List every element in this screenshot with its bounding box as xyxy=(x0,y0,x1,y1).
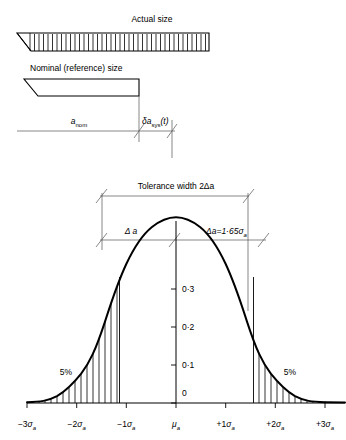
x-tick-label-4: +1σa xyxy=(217,419,236,431)
x-tick-4-sign: +1 xyxy=(217,419,227,429)
y-axis-ticks xyxy=(171,289,176,403)
x-tick-5-subscript: a xyxy=(281,425,285,431)
x-tick-1-sign: −2 xyxy=(68,419,78,429)
delta-a-sys-label: δasys(t) xyxy=(142,116,169,128)
a-nom-subscript: nom xyxy=(76,122,88,128)
y-tick-label-1: 0·1 xyxy=(182,360,195,370)
x-tick-4-subscript: a xyxy=(231,425,235,431)
x-tick-label-3: μa xyxy=(171,419,181,431)
tolerance-width-label: Tolerance width 2Δa xyxy=(138,181,215,191)
left-tail-percent-label: 5% xyxy=(60,367,73,377)
x-tick-0-sign: −3 xyxy=(18,419,28,429)
x-tick-6-sign: +3 xyxy=(316,419,326,429)
x-axis-ticks xyxy=(27,403,325,408)
actual-size-title: Actual size xyxy=(131,14,172,24)
nominal-size-title: Nominal (reference) size xyxy=(30,63,123,73)
x-tick-label-5: +2σa xyxy=(266,419,285,431)
y-tick-label-3: 0·3 xyxy=(182,284,195,294)
y-tick-label-0: 0 xyxy=(182,388,187,398)
delta-a-value-text: Δa=1·65σ xyxy=(205,226,244,236)
x-tick-3-subscript: a xyxy=(177,425,181,431)
x-tick-6-subscript: a xyxy=(331,425,335,431)
delta-a-sys-symbol: δa xyxy=(142,116,152,126)
x-tick-2-subscript: a xyxy=(132,425,136,431)
delta-a-value-subscript: a xyxy=(244,232,248,238)
x-tick-label-1: −2σa xyxy=(68,419,87,431)
x-tick-5-sign: +2 xyxy=(266,419,276,429)
y-tick-label-2: 0·2 xyxy=(182,322,195,332)
figure-root: Actual size Nominal (reference) size ano… xyxy=(0,0,346,440)
left-tail-shading xyxy=(27,200,120,403)
x-tick-label-0: −3σa xyxy=(18,419,37,431)
actual-size-bar xyxy=(17,33,209,51)
actual-size-group xyxy=(17,33,209,51)
x-tick-2-sign: −1 xyxy=(117,419,127,429)
x-tick-label-2: −1σa xyxy=(117,419,136,431)
delta-a-sys-argument: (t) xyxy=(160,116,168,126)
x-tick-0-subscript: a xyxy=(33,425,37,431)
x-tick-1-subscript: a xyxy=(82,425,86,431)
x-tick-label-6: +3σa xyxy=(316,419,335,431)
delta-a-value-label: Δa=1·65σa xyxy=(205,226,248,238)
right-tail-percent-label: 5% xyxy=(284,367,297,377)
nominal-size-shape xyxy=(24,79,139,96)
delta-a-left-label: Δ a xyxy=(124,226,138,236)
delta-a-sys-subscript: sys xyxy=(151,122,160,128)
a-nom-label: anom xyxy=(71,116,87,128)
